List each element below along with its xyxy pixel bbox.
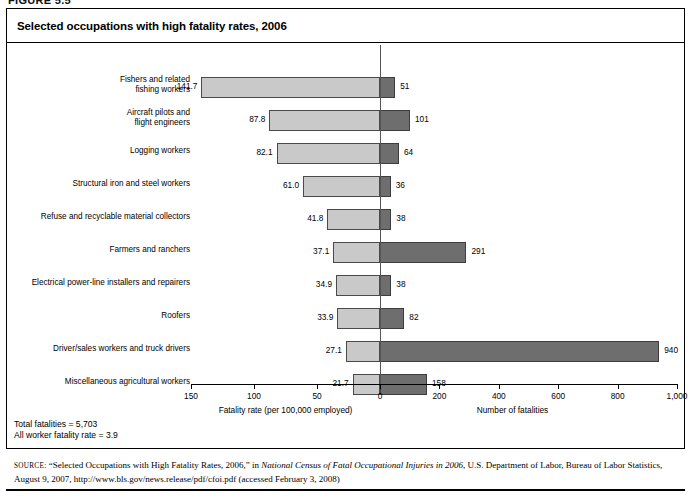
count-axis-title: Number of fatalities — [477, 405, 548, 415]
fatality-rate-bar — [346, 341, 380, 362]
count-axis-tick-label: 600 — [551, 391, 565, 401]
fatality-rate-bar — [269, 110, 380, 131]
table-row: Miscellaneous agricultural workers21.715… — [7, 370, 684, 403]
fatality-rate-value: 37.1 — [307, 246, 329, 256]
table-row: Roofers33.982 — [7, 304, 684, 337]
fatality-rate-value: 21.7 — [327, 378, 349, 388]
count-axis-tick-label: 800 — [611, 391, 625, 401]
category-label: Driver/sales workers and truck drivers — [0, 344, 190, 354]
fatality-count-value: 38 — [396, 279, 405, 289]
figure-box: Selected occupations with high fatality … — [6, 8, 685, 449]
category-label: Roofers — [0, 311, 190, 321]
axis-tick — [558, 384, 559, 389]
category-label: Electrical power-line installers and rep… — [0, 278, 190, 288]
axis-tick — [254, 384, 255, 389]
fatality-rate-value: 34.9 — [310, 279, 332, 289]
table-row: Structural iron and steel workers61.036 — [7, 172, 684, 205]
source-note: SOURCE: “Selected Occupations with High … — [14, 459, 678, 485]
fatality-rate-bar — [337, 308, 380, 329]
axis-tick — [191, 384, 192, 389]
count-axis-tick-label: 1,000 — [667, 391, 688, 401]
fatality-count-value: 36 — [396, 180, 405, 190]
x-axis-line — [191, 384, 677, 385]
category-label: Structural iron and steel workers — [0, 179, 190, 189]
fatality-count-value: 51 — [400, 81, 409, 91]
fatality-count-value: 82 — [409, 312, 418, 322]
table-row: Electrical power-line installers and rep… — [7, 271, 684, 304]
rate-axis-tick-label: 50 — [312, 391, 321, 401]
table-row: Fishers and relatedfishing workers141.75… — [7, 73, 684, 106]
table-row: Driver/sales workers and truck drivers27… — [7, 337, 684, 370]
table-row: Farmers and ranchers37.1291 — [7, 238, 684, 271]
figure-number: FIGURE 5.5 — [8, 0, 71, 6]
category-label: Logging workers — [0, 146, 190, 156]
chart-notes: Total fatalities = 5,703 All worker fata… — [14, 419, 118, 441]
axis-tick — [317, 384, 318, 389]
fatality-count-value: 101 — [415, 114, 429, 124]
category-label: Aircraft pilots andflight engineers — [0, 108, 190, 127]
fatality-count-bar — [380, 308, 404, 329]
fatality-count-bar — [380, 77, 395, 98]
rate-axis-tick-label: 0 — [378, 391, 383, 401]
fatality-count-value: 291 — [471, 246, 485, 256]
fatality-count-bar — [380, 242, 466, 263]
fatality-rate-value: 141.7 — [175, 81, 197, 91]
category-label: Refuse and recyclable material collector… — [0, 212, 190, 222]
fatality-rate-bar — [327, 209, 380, 230]
table-row: Logging workers82.164 — [7, 139, 684, 172]
axis-tick — [618, 384, 619, 389]
note-all-worker-rate: All worker fatality rate = 3.9 — [14, 430, 118, 441]
page-title: Selected occupations with high fatality … — [17, 20, 287, 32]
category-label: Miscellaneous agricultural workers — [0, 377, 190, 387]
category-label: Farmers and ranchers — [0, 245, 190, 255]
fatality-rate-value: 27.1 — [320, 345, 342, 355]
source-publication-title: National Census of Fatal Occupational In… — [261, 460, 463, 470]
fatality-count-bar — [380, 341, 659, 362]
figure-page: FIGURE 5.5 Selected occupations with hig… — [0, 0, 694, 496]
bottom-divider — [6, 489, 685, 491]
category-label: Fishers and relatedfishing workers — [0, 75, 190, 94]
fatality-count-bar — [380, 143, 399, 164]
fatality-rate-bar — [333, 242, 380, 263]
fatality-count-bar — [380, 176, 391, 197]
fatality-rate-value: 41.8 — [301, 213, 323, 223]
fatality-count-bar — [380, 209, 391, 230]
fatality-count-value: 38 — [396, 213, 405, 223]
note-total-fatalities: Total fatalities = 5,703 — [14, 419, 118, 430]
fatality-rate-value: 82.1 — [251, 147, 273, 157]
table-row: Refuse and recyclable material collector… — [7, 205, 684, 238]
axis-tick — [439, 384, 440, 389]
title-divider — [7, 42, 684, 43]
fatality-rate-value: 87.8 — [243, 114, 265, 124]
source-text-part1: “Selected Occupations with High Fatality… — [46, 460, 261, 470]
source-label: SOURCE: — [14, 462, 46, 470]
fatality-rate-bar — [277, 143, 380, 164]
fatality-rate-value: 33.9 — [311, 312, 333, 322]
axis-tick — [380, 384, 381, 389]
fatality-rate-bar — [336, 275, 380, 296]
axis-tick — [499, 384, 500, 389]
fatality-count-bar — [380, 275, 391, 296]
count-axis-tick-label: 200 — [432, 391, 446, 401]
rate-axis-title: Fatality rate (per 100,000 employed) — [219, 405, 353, 415]
rate-axis-tick-label: 100 — [247, 391, 261, 401]
fatality-count-bar — [380, 110, 410, 131]
fatality-rate-value: 61.0 — [277, 180, 299, 190]
chart-plot-area: Fishers and relatedfishing workers141.75… — [7, 49, 684, 447]
fatality-rate-bar — [201, 77, 380, 98]
rate-axis-tick-label: 150 — [184, 391, 198, 401]
axis-tick — [677, 384, 678, 389]
count-axis-tick-label: 400 — [492, 391, 506, 401]
fatality-count-value: 940 — [664, 345, 678, 355]
fatality-rate-bar — [303, 176, 380, 197]
fatality-count-value: 64 — [404, 147, 413, 157]
table-row: Aircraft pilots andflight engineers87.81… — [7, 106, 684, 139]
zero-axis-line — [380, 45, 381, 385]
bar-rows: Fishers and relatedfishing workers141.75… — [7, 49, 684, 384]
